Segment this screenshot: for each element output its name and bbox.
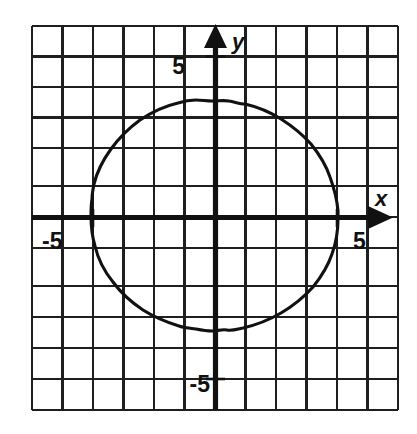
coordinate-plane-svg: 5 -5 5 -5 y x <box>0 0 417 434</box>
y-axis-positive-tick-label: 5 <box>172 53 185 79</box>
y-axis-negative-tick-label: -5 <box>190 371 211 397</box>
x-axis-positive-tick-label: 5 <box>353 228 366 254</box>
graph-figure: 5 -5 5 -5 y x <box>0 0 417 434</box>
x-axis-label: x <box>374 186 388 211</box>
y-axis-label: y <box>231 29 246 54</box>
x-axis-negative-tick-label: -5 <box>42 228 63 254</box>
